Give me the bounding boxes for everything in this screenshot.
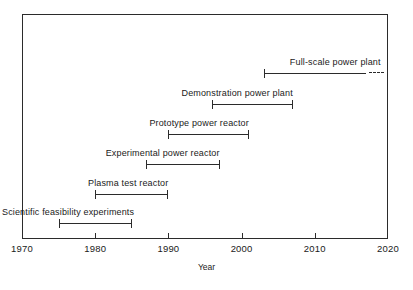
timeline-bar-line (146, 164, 219, 165)
timeline-bar-end-cap (167, 190, 168, 199)
timeline-bar-label: Experimental power reactor (106, 148, 220, 158)
timeline-bar-start-cap (95, 190, 96, 199)
x-axis-tick-label: 1990 (157, 243, 179, 254)
timeline-bar-line (168, 134, 249, 135)
timeline-bar-end-cap (131, 219, 132, 228)
timeline-bar-continuation-dashes (369, 72, 384, 74)
timeline-bar-label: Plasma test reactor (88, 178, 168, 188)
timeline-bar-start-cap (168, 130, 169, 139)
timeline-bar-label: Full-scale power plant (290, 57, 381, 67)
fusion-development-timeline-chart: Full-scale power plantDemonstration powe… (0, 0, 413, 290)
x-axis-tick (95, 233, 96, 239)
timeline-bar-start-cap (146, 160, 147, 169)
timeline-bar-start-cap (264, 69, 265, 78)
timeline-bar-start-cap (59, 219, 60, 228)
x-axis-title: Year (0, 262, 413, 272)
x-axis-tick (315, 233, 316, 239)
timeline-bar-end-cap (248, 130, 249, 139)
x-axis-tick (168, 233, 169, 239)
timeline-bar-line (264, 73, 366, 74)
timeline-bar-end-cap (219, 160, 220, 169)
timeline-bar-start-cap (212, 100, 213, 109)
x-axis-tick-label: 2020 (377, 243, 399, 254)
x-axis-tick-label: 1980 (84, 243, 106, 254)
timeline-bar-end-cap (292, 100, 293, 109)
timeline-bar-line (212, 104, 293, 105)
timeline-bar-line (95, 194, 168, 195)
x-axis-tick-label: 2010 (304, 243, 326, 254)
timeline-bar-label: Prototype power reactor (149, 118, 249, 128)
timeline-bar-line (59, 223, 132, 224)
timeline-bar-label: Demonstration power plant (182, 88, 293, 98)
x-axis-tick-label: 1970 (11, 243, 33, 254)
x-axis-tick-label: 2000 (231, 243, 253, 254)
x-axis-tick (242, 233, 243, 239)
timeline-bar-label: Scientific feasibility experiments (2, 207, 134, 217)
